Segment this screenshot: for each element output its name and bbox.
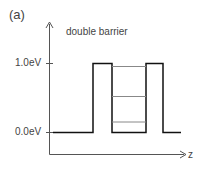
axes	[46, 22, 186, 158]
plot	[0, 0, 205, 172]
double-barrier-diagram: (a) double barrier 1.0eV 0.0eV z	[0, 0, 205, 172]
energy-levels	[112, 67, 146, 123]
